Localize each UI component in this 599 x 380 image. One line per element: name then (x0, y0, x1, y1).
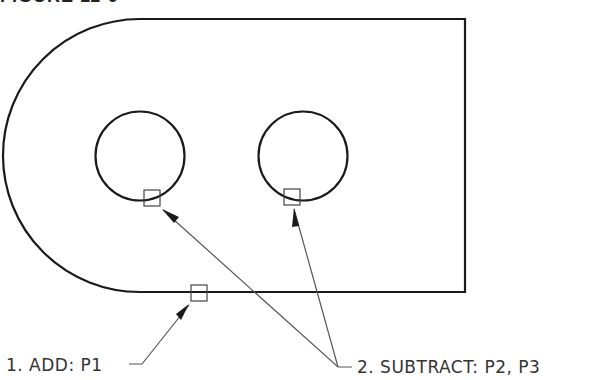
drawing-canvas (0, 0, 599, 380)
arrowhead-p2 (162, 209, 179, 223)
right-circle (259, 112, 348, 201)
left-circle (96, 112, 185, 201)
arrowhead-p1 (176, 304, 189, 320)
label-add-p1: 1. ADD: P1 (6, 355, 103, 375)
label-subtract-p2-p3: 2. SUBTRACT: P2, P3 (357, 357, 540, 377)
outer-boundary (3, 19, 465, 292)
leader-subtract-p3 (294, 209, 338, 367)
arrowhead-p3 (292, 208, 299, 227)
